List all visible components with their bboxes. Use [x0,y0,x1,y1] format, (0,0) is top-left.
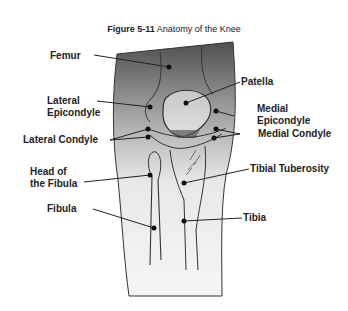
label-head-of-fibula-line2: the Fibula [30,178,77,190]
label-tibia: Tibia [243,212,266,224]
label-femur: Femur [50,50,81,62]
label-medial-epicondyle-line2: Epicondyle [257,115,310,127]
label-fibula: Fibula [47,203,76,215]
label-lateral-epicondyle-line1: Lateral [47,95,80,107]
label-medial-condyle: Medial Condyle [258,128,331,140]
label-medial-epicondyle-line1: Medial [257,103,288,115]
label-lateral-condyle: Lateral Condyle [23,134,98,146]
label-patella: Patella [241,76,273,88]
label-tibial-tuberosity: Tibial Tuberosity [250,163,329,175]
leg-silhouette [113,42,235,296]
label-lateral-epicondyle-line2: Epicondyle [47,107,100,119]
label-head-of-fibula-line1: Head of [30,166,67,178]
knee-diagram [0,0,348,311]
